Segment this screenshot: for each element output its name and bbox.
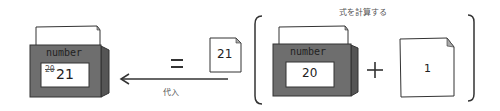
plus-sign — [367, 62, 383, 78]
result-new-value: 21 — [56, 66, 74, 82]
assigned-value: 21 — [217, 47, 232, 61]
assign-label: 代入 — [163, 86, 179, 97]
operand-value: 1 — [424, 62, 431, 75]
expression-label: 式を計算する — [339, 6, 387, 17]
result-variable-box — [30, 26, 109, 97]
assign-arrow — [121, 74, 228, 84]
expression-variable-name: number — [290, 46, 326, 57]
expression-variable-box — [273, 26, 358, 96]
expression-variable-value: 20 — [302, 66, 317, 80]
result-variable-name: number — [46, 47, 82, 58]
equals-sign — [171, 60, 183, 67]
result-old-value: 20 — [45, 65, 55, 74]
left-bracket — [255, 16, 262, 104]
right-bracket — [468, 15, 474, 101]
